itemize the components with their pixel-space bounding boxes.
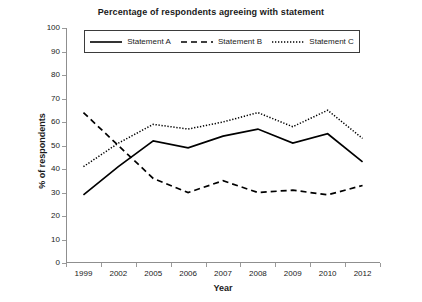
x-tick-label: 2005 [144,270,162,278]
legend-entry-statement-c: Statement C [272,38,353,46]
x-axis-title: Year [66,283,380,293]
x-axis-line [66,262,380,263]
y-tick [62,99,66,100]
y-tick-label: 50 [51,142,60,150]
y-tick [62,193,66,194]
x-tick [66,263,67,267]
y-axis-title: % of respondents [37,113,47,189]
x-tick [240,263,241,267]
legend-entry-statement-a: Statement A [90,38,171,46]
x-tick [101,263,102,267]
y-tick-label: 20 [51,212,60,220]
legend-swatch-dotted [272,38,304,46]
x-tick-label: 2008 [249,270,267,278]
x-tick-label: 2002 [109,270,127,278]
y-tick [62,28,66,29]
x-tick [275,263,276,267]
y-tick-label: 40 [51,165,60,173]
y-tick-label: 100 [47,24,60,32]
y-tick-label: 90 [51,48,60,56]
series-line-statement-b [83,113,362,195]
chart-title: Percentage of respondents agreeing with … [0,7,422,17]
x-tick-label: 2007 [214,270,232,278]
chart-legend: Statement A Statement B Statement C [84,30,360,53]
y-tick [62,52,66,53]
x-tick [171,263,172,267]
x-tick [136,263,137,267]
x-tick-label: 2009 [284,270,302,278]
y-tick-label: 0 [56,259,60,267]
x-tick-label: 1999 [75,270,93,278]
legend-swatch-dashed [181,38,213,46]
y-tick [62,146,66,147]
legend-label-statement-b: Statement B [218,38,262,46]
legend-entry-statement-b: Statement B [181,38,262,46]
x-tick-label: 2012 [354,270,372,278]
x-tick [206,263,207,267]
y-tick-label: 70 [51,95,60,103]
x-tick [310,263,311,267]
series-line-statement-c [83,110,362,166]
y-tick [62,169,66,170]
series-lines [66,28,380,263]
y-tick [62,216,66,217]
y-tick [62,75,66,76]
line-chart: Percentage of respondents agreeing with … [0,0,422,302]
y-tick-label: 80 [51,71,60,79]
y-axis-line [66,28,67,263]
plot-area: 1009080706050403020100 19992002200520062… [66,28,380,263]
x-tick-label: 2010 [319,270,337,278]
series-line-statement-a [83,129,362,195]
y-tick-label: 10 [51,236,60,244]
y-tick [62,240,66,241]
legend-label-statement-a: Statement A [127,38,171,46]
legend-swatch-solid [90,38,122,46]
x-tick-label: 2006 [179,270,197,278]
y-tick [62,122,66,123]
x-tick [380,263,381,267]
x-tick [345,263,346,267]
legend-label-statement-c: Statement C [309,38,353,46]
y-tick-label: 60 [51,118,60,126]
y-tick-label: 30 [51,189,60,197]
